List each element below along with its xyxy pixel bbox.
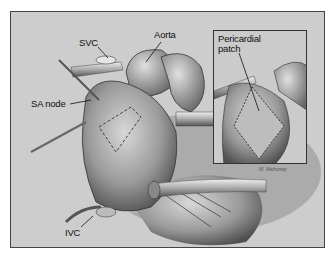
label-svc: SVC [79, 38, 98, 48]
label-ivc: IVC [65, 228, 80, 238]
illustration-frame: Aorta SVC SA node IVC Pericardial patch … [10, 11, 325, 248]
label-aorta: Aorta [154, 30, 176, 40]
label-sa-node: SA node [31, 99, 66, 109]
label-pericardial-patch-line2: patch [218, 44, 240, 54]
inset-panel: Pericardial patch [213, 30, 307, 164]
artist-signature: M. Mahoney [259, 166, 287, 172]
